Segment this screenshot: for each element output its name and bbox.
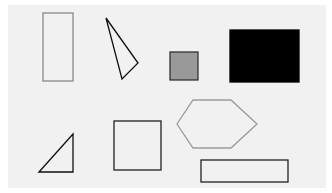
shapes-canvas: [0, 0, 332, 193]
hexagon-shape: [177, 100, 257, 148]
right-triangle-shape: [39, 134, 73, 172]
black-rectangle-shape: [230, 30, 299, 82]
tall-rectangle-shape: [43, 13, 73, 81]
small-gray-square-shape: [170, 52, 198, 80]
outlined-square-shape: [114, 121, 161, 170]
wide-rectangle-shape: [201, 160, 288, 182]
thin-triangle-shape: [106, 18, 138, 79]
